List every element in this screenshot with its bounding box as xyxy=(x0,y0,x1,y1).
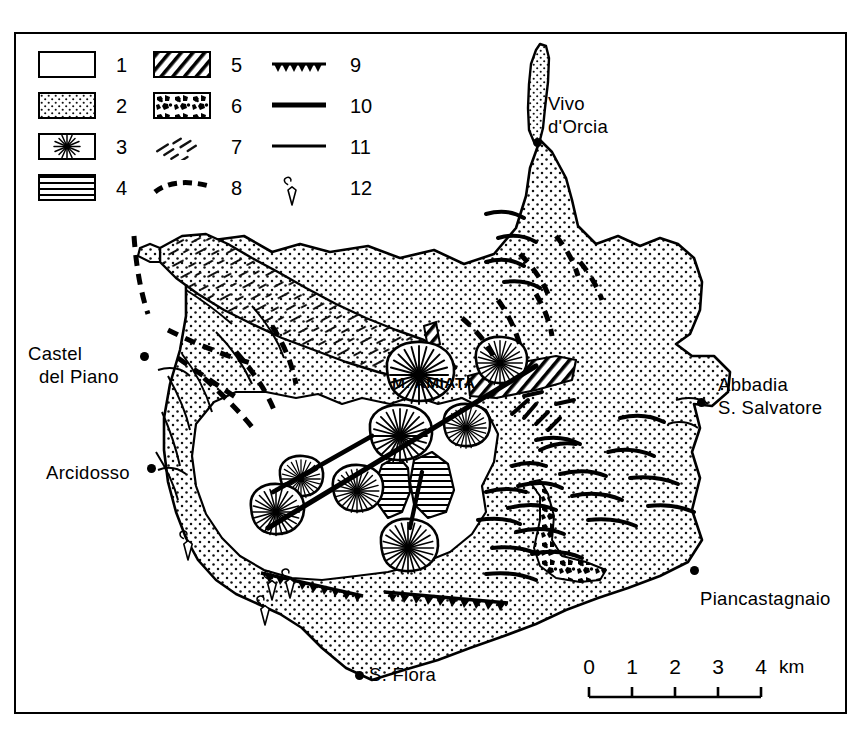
legend-item-8: 8 xyxy=(153,167,273,208)
scale-tick-0: 0 xyxy=(583,655,595,679)
dot-abbadia-s-salvatore xyxy=(697,398,706,407)
swatch-dash-field xyxy=(153,133,211,160)
label-vivo-dorcia: Vivo d'Orcia xyxy=(548,92,608,138)
legend-column-3: 9 10 11 xyxy=(270,44,390,219)
legend-number-6: 6 xyxy=(231,96,242,116)
map-legend: 1 2 xyxy=(38,44,388,219)
scale-tick-3: 3 xyxy=(712,655,724,679)
scale-unit: km xyxy=(779,656,804,678)
swatch-thick-dashed-curve xyxy=(153,174,211,201)
label-m-amiata: M. AMIATA xyxy=(392,374,475,392)
legend-number-5: 5 xyxy=(231,55,242,75)
label-abbadia-s-salvatore: Abbadia S. Salvatore xyxy=(718,373,822,419)
legend-number-7: 7 xyxy=(231,137,242,157)
legend-number-11: 11 xyxy=(350,137,371,157)
legend-number-1: 1 xyxy=(116,55,127,75)
legend-number-4: 4 xyxy=(116,178,127,198)
legend-number-9: 9 xyxy=(350,55,361,75)
legend-column-2: 5 6 xyxy=(153,44,273,219)
label-piancastagnaio: Piancastagnaio xyxy=(700,588,831,609)
dot-arcidosso xyxy=(147,464,156,473)
swatch-fumarole xyxy=(270,174,328,201)
legend-item-5: 5 xyxy=(153,44,273,85)
legend-column-1: 1 2 xyxy=(38,44,158,219)
swatch-breccia-box xyxy=(153,92,211,119)
scale-tick-4: 4 xyxy=(755,655,767,679)
legend-item-11: 11 xyxy=(270,126,390,167)
swatch-sawtooth-line xyxy=(270,51,328,78)
legend-number-3: 3 xyxy=(116,137,127,157)
legend-item-3: 3 xyxy=(38,126,158,167)
legend-item-4: 4 xyxy=(38,167,158,208)
geological-map-figure: 1 2 xyxy=(0,0,861,733)
swatch-stippled-box xyxy=(38,92,96,119)
label-arcidosso: Arcidosso xyxy=(46,462,130,483)
legend-item-1: 1 xyxy=(38,44,158,85)
swatch-thin-solid-line xyxy=(270,133,328,160)
legend-number-8: 8 xyxy=(231,178,242,198)
swatch-horizontal-lines-box xyxy=(38,174,96,201)
scale-bar: 0 1 2 3 4 km xyxy=(583,655,825,705)
dot-castel-del-piano xyxy=(140,352,149,361)
dot-piancastagnaio xyxy=(690,566,699,575)
swatch-radial-box xyxy=(38,133,96,160)
legend-item-12: 12 xyxy=(270,167,390,208)
legend-number-2: 2 xyxy=(116,96,127,116)
label-castel-del-piano: Castel del Piano xyxy=(28,342,119,388)
swatch-blank-box xyxy=(38,51,96,78)
legend-item-2: 2 xyxy=(38,85,158,126)
label-s-fiora: S. Fiora xyxy=(369,664,436,685)
legend-number-10: 10 xyxy=(350,96,372,116)
legend-item-10: 10 xyxy=(270,85,390,126)
swatch-diagonal-hatch-box xyxy=(153,51,211,78)
dot-vivo-dorcia xyxy=(533,138,542,147)
dot-s-fiora xyxy=(355,671,364,680)
legend-item-6: 6 xyxy=(153,85,273,126)
legend-item-7: 7 xyxy=(153,126,273,167)
legend-number-12: 12 xyxy=(350,178,372,198)
legend-item-9: 9 xyxy=(270,44,390,85)
scale-tick-1: 1 xyxy=(626,655,638,679)
swatch-thick-solid-line xyxy=(270,92,328,119)
scale-tick-2: 2 xyxy=(669,655,681,679)
